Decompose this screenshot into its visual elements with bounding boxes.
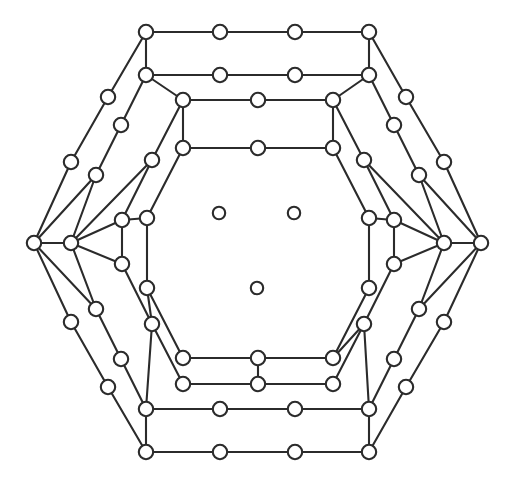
node-layer [27, 25, 488, 459]
graph-node[interactable] [362, 402, 376, 416]
graph-edge [364, 324, 369, 409]
graph-node[interactable] [213, 25, 227, 39]
graph-node[interactable] [251, 282, 263, 294]
graph-node[interactable] [64, 236, 78, 250]
graph-edge [394, 309, 419, 359]
graph-edge [121, 75, 146, 125]
graph-edge [369, 75, 394, 125]
graph-node[interactable] [437, 236, 451, 250]
graph-node[interactable] [140, 211, 154, 225]
graph-edge [34, 243, 71, 322]
graph-node[interactable] [139, 402, 153, 416]
graph-edge [96, 125, 121, 175]
graph-edge [444, 243, 481, 322]
graph-node[interactable] [114, 118, 128, 132]
graph-node[interactable] [362, 445, 376, 459]
graph-node[interactable] [387, 257, 401, 271]
graph-edge [34, 243, 96, 309]
graph-node[interactable] [357, 153, 371, 167]
graph-node[interactable] [437, 315, 451, 329]
graph-node[interactable] [176, 93, 190, 107]
graph-node[interactable] [101, 380, 115, 394]
graph-node[interactable] [326, 93, 340, 107]
graph-node[interactable] [326, 377, 340, 391]
graph-node[interactable] [139, 445, 153, 459]
graph-node[interactable] [387, 352, 401, 366]
graph-node[interactable] [27, 236, 41, 250]
graph-node[interactable] [114, 352, 128, 366]
graph-node[interactable] [115, 213, 129, 227]
graph-node[interactable] [326, 141, 340, 155]
graph-node[interactable] [362, 211, 376, 225]
graph-node[interactable] [399, 90, 413, 104]
graph-node[interactable] [251, 351, 265, 365]
graph-node[interactable] [213, 207, 225, 219]
graph-edge [71, 322, 108, 387]
graph-node[interactable] [176, 141, 190, 155]
graph-node[interactable] [140, 281, 154, 295]
graph-node[interactable] [251, 93, 265, 107]
graph-node[interactable] [288, 402, 302, 416]
graph-node[interactable] [115, 257, 129, 271]
graph-node[interactable] [362, 68, 376, 82]
graph-node[interactable] [101, 90, 115, 104]
graph-node[interactable] [89, 302, 103, 316]
graph-edge [146, 324, 152, 409]
graph-node[interactable] [64, 155, 78, 169]
graph-node[interactable] [399, 380, 413, 394]
graph-node[interactable] [357, 317, 371, 331]
graph-node[interactable] [139, 68, 153, 82]
graph-edge [364, 160, 444, 243]
graph-node[interactable] [139, 25, 153, 39]
graph-node[interactable] [251, 141, 265, 155]
graph-edge [419, 175, 481, 243]
graph-node[interactable] [288, 207, 300, 219]
graph-node[interactable] [412, 168, 426, 182]
graph-node[interactable] [213, 402, 227, 416]
graph-edge [406, 97, 444, 162]
graph-node[interactable] [213, 68, 227, 82]
graph-node[interactable] [145, 153, 159, 167]
graph-canvas [0, 0, 515, 484]
graph-node[interactable] [437, 155, 451, 169]
graph-node[interactable] [89, 168, 103, 182]
graph-edge [71, 97, 108, 162]
graph-node[interactable] [326, 351, 340, 365]
graph-node[interactable] [176, 377, 190, 391]
graph-edge [96, 309, 121, 359]
graph-node[interactable] [362, 281, 376, 295]
graph-edge [369, 359, 394, 409]
graph-node[interactable] [288, 25, 302, 39]
graph-edge [444, 162, 481, 243]
graph-node[interactable] [288, 68, 302, 82]
graph-node[interactable] [64, 315, 78, 329]
graph-edge [34, 175, 96, 243]
graph-edge [419, 243, 481, 309]
graph-node[interactable] [288, 445, 302, 459]
graph-edge [71, 243, 96, 309]
graph-node[interactable] [387, 213, 401, 227]
graph-edge [121, 359, 146, 409]
graph-node[interactable] [387, 118, 401, 132]
graph-node[interactable] [176, 351, 190, 365]
graph-figure [0, 0, 515, 484]
graph-edge [406, 322, 444, 387]
graph-node[interactable] [362, 25, 376, 39]
graph-node[interactable] [145, 317, 159, 331]
graph-node[interactable] [213, 445, 227, 459]
graph-node[interactable] [412, 302, 426, 316]
graph-node[interactable] [251, 377, 265, 391]
graph-node[interactable] [474, 236, 488, 250]
graph-edge [394, 125, 419, 175]
graph-edge [34, 162, 71, 243]
graph-edge [71, 160, 152, 243]
